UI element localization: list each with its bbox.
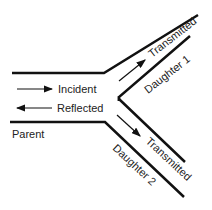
- parent-label: Parent: [12, 128, 44, 140]
- transmitted-bottom-arrow-icon: [117, 115, 140, 136]
- reflected-label: Reflected: [57, 102, 103, 114]
- incident-label: Incident: [58, 83, 97, 95]
- bifurcation-diagram: Incident Reflected Parent Transmitted Da…: [0, 0, 212, 210]
- daughter1-label: Daughter 1: [142, 53, 192, 96]
